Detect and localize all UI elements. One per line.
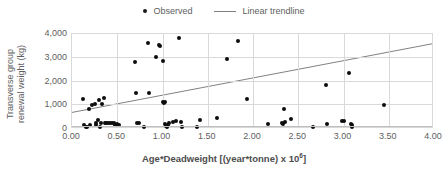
gridline-vertical [117,33,118,127]
x-axis-title: Age*Deadweight [(year*tonne) x 106] [0,150,448,165]
gridline-horizontal [72,57,432,58]
data-point [177,36,181,40]
y-axis-title-line2: renewal weight (kg) [16,45,28,123]
x-axis-tick-labels: 0.000.501.001.502.002.503.003.504.00 [71,131,433,143]
y-axis-tick-label: 3,000 [33,52,67,62]
gridline-vertical [253,33,254,127]
y-axis-tick-labels: 01,0002,0003,0004,000 [33,0,67,174]
gridline-horizontal [72,81,432,82]
trendline-segment [72,44,432,113]
legend-label-observed: Observed [153,6,192,17]
data-point [174,119,178,123]
gridline-horizontal [72,104,432,105]
data-point [282,107,286,111]
data-point [215,116,219,120]
data-point [167,121,171,125]
data-point [342,119,346,123]
data-point [179,120,183,124]
data-point [100,102,104,106]
data-point [283,120,287,124]
x-axis-tick-label: 2.50 [277,131,317,142]
data-point [147,91,151,95]
data-point [93,102,97,106]
y-axis-title: Transverse group renewal weight (kg) [2,26,30,142]
plot-area [71,33,433,128]
data-point [137,121,141,125]
x-axis-tick-label: 1.00 [142,131,182,142]
plot-inner [72,33,432,127]
data-point [236,39,240,43]
y-axis-title-container: Transverse group renewal weight (kg) [2,20,30,135]
x-axis-tick-label: 4.00 [413,131,448,142]
x-axis-tick-label: 3.50 [368,131,408,142]
x-axis-tick-label: 1.50 [187,131,227,142]
x-axis-title-tail: ] [303,153,306,164]
legend-entry-trendline[interactable]: Linear trendline [214,6,304,17]
chart-legend: Observed Linear trendline [0,3,448,19]
legend-label-trendline: Linear trendline [242,6,304,17]
gridline-horizontal [72,33,432,34]
x-axis-tick-label: 2.00 [232,131,272,142]
data-point [146,41,150,45]
y-axis-title-line1: Transverse group [5,49,17,119]
x-axis-tick-label: 0.00 [51,131,91,142]
data-point [245,97,249,101]
legend-entry-observed[interactable]: Observed [143,6,192,17]
gridline-vertical [389,33,390,127]
line-marker-icon [214,11,236,12]
x-axis-tick-label: 0.50 [96,131,136,142]
gridline-vertical [163,33,164,127]
x-axis-tick-label: 3.00 [323,131,363,142]
y-axis-tick-label: 1,000 [33,99,67,109]
scatter-chart: Observed Linear trendline Transverse gro… [0,0,448,174]
gridline-vertical [298,33,299,127]
gridline-vertical [208,33,209,127]
y-axis-tick-label: 4,000 [33,28,67,38]
gridline-vertical [344,33,345,127]
x-axis-line [72,126,432,127]
y-axis-tick-label: 2,000 [33,76,67,86]
x-axis-title-main: Age*Deadweight [(year*tonne) x 10 [142,153,299,164]
data-point [158,44,162,48]
data-point [81,97,85,101]
data-point [161,59,165,63]
filled-circle-marker-icon [143,9,147,13]
